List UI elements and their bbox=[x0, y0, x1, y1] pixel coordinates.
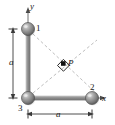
sphere-2 bbox=[86, 92, 100, 106]
physics-figure: y x 1 2 3 P a a bbox=[0, 0, 115, 125]
x-axis-label: x bbox=[102, 94, 106, 103]
dimension-label-vertical: a bbox=[9, 58, 14, 67]
dimension-label-horizontal: a bbox=[56, 110, 61, 119]
dashed-line-sphere3-to-P bbox=[33, 40, 97, 93]
sphere-1-label: 1 bbox=[36, 24, 41, 33]
sphere-3 bbox=[22, 92, 36, 106]
point-P-label: P bbox=[68, 59, 74, 68]
sphere-3-label: 3 bbox=[18, 104, 23, 113]
sphere-1 bbox=[22, 23, 36, 37]
y-axis-label: y bbox=[30, 2, 34, 11]
sphere-2-label: 2 bbox=[90, 83, 95, 92]
point-P-marker bbox=[61, 61, 66, 66]
